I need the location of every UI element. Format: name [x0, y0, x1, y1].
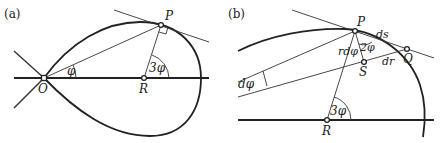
label-ds: ds: [376, 28, 389, 41]
figure: (a) φ 3φ O R P (b): [0, 0, 445, 143]
panel-a: (a) φ 3φ O R P: [4, 7, 209, 136]
point-R-b: [325, 118, 330, 123]
point-O: [42, 76, 47, 81]
point-Q: [405, 47, 410, 52]
branch-upper-left: [14, 51, 44, 78]
dphi-marker: [263, 71, 267, 86]
panel-b-label: (b): [228, 7, 245, 21]
label-O: O: [38, 82, 48, 96]
diagram-canvas: (a) φ 3φ O R P (b): [0, 0, 445, 143]
panel-a-label: (a): [4, 7, 21, 21]
point-P: [159, 23, 164, 28]
point-P-b: [353, 29, 358, 34]
angle-label-phi: φ: [67, 64, 76, 78]
segment-OP: [44, 25, 161, 78]
label-R: R: [138, 82, 148, 96]
angle-label-3phi-b: 3φ: [330, 104, 347, 118]
point-S: [362, 60, 367, 65]
label-dr: dr: [382, 55, 395, 68]
label-r-dphi: rdφ: [338, 45, 358, 58]
angle-label-2phi: 2φ: [359, 41, 375, 54]
angle-label-dphi: dφ: [238, 77, 255, 91]
label-P: P: [164, 9, 174, 23]
label-R-b: R: [321, 124, 331, 138]
label-S: S: [359, 65, 367, 79]
point-R: [142, 76, 147, 81]
label-Q: Q: [403, 52, 413, 66]
loop-curve: [44, 22, 201, 136]
panel-b: (b) dφ rdφ 2φ ds dr 3φ P Q S: [228, 7, 434, 138]
label-P-b: P: [356, 15, 366, 29]
angle-label-3phi: 3φ: [149, 61, 166, 75]
